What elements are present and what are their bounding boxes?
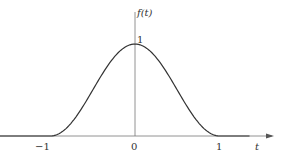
peak-label: 1 [137,34,143,45]
y-axis-label: f(t) [136,7,153,18]
tick-label-minus1: −1 [35,141,50,152]
tick-label-0: 0 [131,141,137,152]
tick-label-1: 1 [216,141,222,152]
chart: f(t) 1 −1 0 1 t [0,0,286,159]
x-axis-label: t [255,141,260,152]
x-axis-arrow-icon [266,134,274,139]
curve-f-of-t [0,44,250,136]
